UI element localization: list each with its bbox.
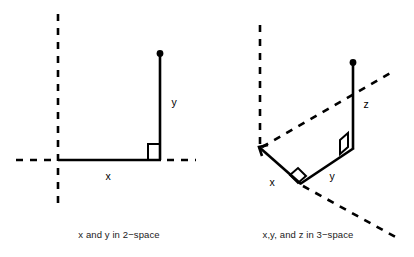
label-z-3d: z	[363, 98, 368, 110]
dashed-depth-axis-3d	[262, 72, 392, 147]
right-angle-marker-2d	[148, 144, 160, 159]
endpoint-dot-2d	[157, 50, 164, 57]
right-angle-marker-vertical-3d	[340, 133, 348, 154]
panel-three-space: x y z x,y, and z in 3−space	[259, 25, 401, 240]
caption-three-space: x,y, and z in 3−space	[263, 229, 354, 240]
figure-container: x y x and y in 2−space	[0, 0, 414, 257]
label-x-3d: x	[269, 176, 275, 188]
endpoint-dot-3d	[350, 59, 357, 66]
panel-two-space: x y x and y in 2−space	[16, 14, 196, 240]
label-x-2d: x	[105, 170, 111, 182]
caption-two-space: x and y in 2−space	[78, 229, 159, 240]
label-y-3d: y	[329, 170, 335, 182]
label-y-2d: y	[171, 96, 177, 108]
segment-y-3d	[300, 148, 354, 184]
vector-diagram-svg: x y x and y in 2−space	[0, 0, 414, 257]
